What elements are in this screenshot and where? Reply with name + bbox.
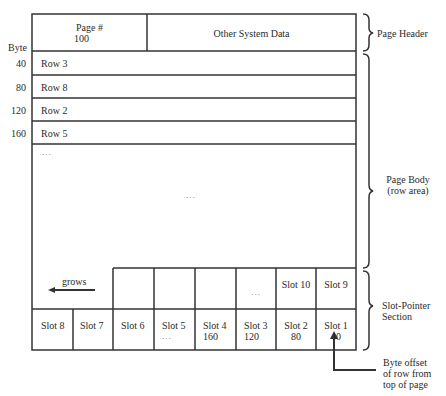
page-header-annotation: Page Header [377, 28, 428, 39]
byte-tick: 40 [14, 58, 26, 69]
slot-value: ... [162, 331, 172, 342]
byte-offset-annotation: Byte offset [383, 357, 427, 368]
page-number-label: Page # [32, 22, 147, 33]
slot-value: 40 [316, 331, 356, 342]
slot-upper-label: Slot 9 [316, 279, 356, 290]
slot-upper-ellipsis: ... [236, 287, 276, 298]
grows-label: grows [62, 276, 86, 287]
slot-label: Slot 3 [244, 320, 268, 331]
other-system-data-label: Other System Data [147, 28, 356, 39]
row-label: Row 8 [41, 82, 67, 93]
slot-label: Slot 4 [203, 320, 227, 331]
slot-label: Slot 6 [121, 320, 145, 331]
byte-axis-label: Byte [8, 42, 27, 53]
slot-value: 120 [244, 331, 259, 342]
slot-label: Slot 5 [162, 320, 186, 331]
slot-label: Slot 7 [80, 320, 104, 331]
byte-tick: 80 [14, 82, 26, 93]
slot-pointer-annotation: Slot-Pointer [382, 300, 430, 311]
byte-tick: 160 [8, 128, 26, 139]
body-ellipsis-center: ... [186, 190, 196, 201]
row-label: Row 5 [41, 128, 67, 139]
slot-label: Slot 2 [276, 320, 316, 331]
slot-label: Slot 1 [316, 320, 356, 331]
byte-offset-annotation: of row from [383, 368, 431, 379]
row-label: Row 2 [41, 105, 67, 116]
slot-value: 80 [276, 331, 316, 342]
page-body-annotation-sub: (row area) [370, 185, 446, 196]
row-label: Row 3 [41, 58, 67, 69]
slot-upper-label: Slot 10 [276, 279, 316, 290]
slot-value: 160 [203, 331, 218, 342]
byte-offset-annotation: top of page [383, 379, 428, 390]
body-ellipsis-left: ... [42, 147, 52, 158]
byte-tick: 120 [8, 105, 26, 116]
page-number-value: 100 [74, 33, 89, 44]
slot-label: Slot 8 [41, 320, 65, 331]
page-body-annotation: Page Body [370, 174, 446, 185]
slot-pointer-annotation-sub: Section [382, 311, 412, 322]
